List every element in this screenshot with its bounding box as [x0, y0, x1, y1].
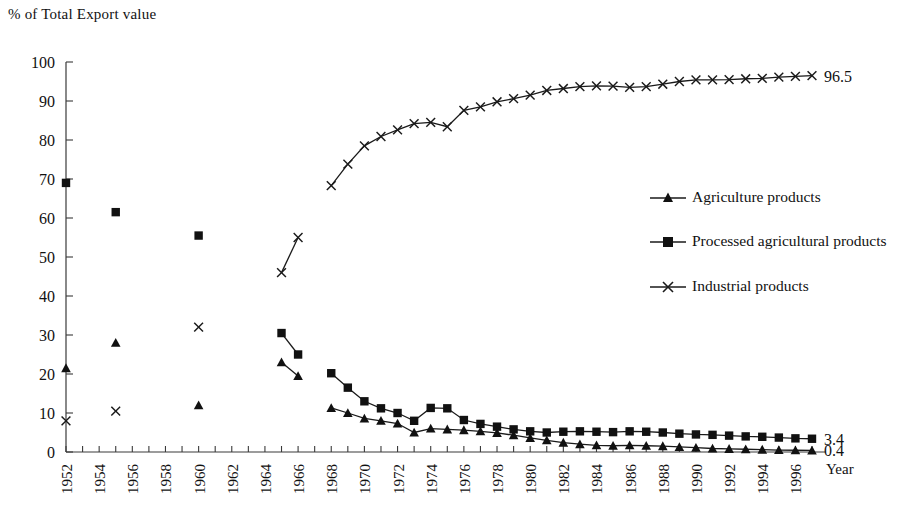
data-point-square: [625, 427, 633, 435]
x-tick-label: 1992: [722, 464, 738, 494]
data-point-square: [642, 428, 650, 436]
data-point-square: [675, 429, 683, 437]
data-point-square: [692, 430, 700, 438]
chart-container: % of Total Export value 0102030405060708…: [0, 0, 902, 522]
data-point-square: [294, 350, 302, 358]
x-tick-label: 1984: [589, 464, 605, 495]
legend-marker-x-icon: [648, 277, 688, 297]
x-tick-label: 1986: [623, 464, 639, 495]
data-point-square: [741, 432, 749, 440]
data-point-square: [112, 208, 120, 216]
series-line: [331, 76, 812, 186]
data-point-square: [493, 422, 501, 430]
series-line: [282, 238, 299, 273]
x-tick-label: 1960: [192, 464, 208, 494]
y-tick-label: 50: [39, 249, 55, 266]
x-tick-label: 1988: [656, 464, 672, 494]
data-point-square: [194, 231, 202, 239]
legend-marker-square-icon: [648, 232, 688, 252]
chart-plot-area: 0102030405060708090100195219541956195819…: [0, 0, 902, 522]
legend-label-industrial: Industrial products: [692, 277, 809, 295]
data-point-triangle: [111, 338, 121, 347]
y-tick-label: 40: [39, 288, 55, 305]
data-point-square: [592, 428, 600, 436]
data-point-square: [758, 433, 766, 441]
data-point-triangle: [277, 358, 287, 367]
data-point-square: [62, 179, 70, 187]
y-tick-label: 20: [39, 366, 55, 383]
data-point-square: [509, 425, 517, 433]
y-tick-label: 90: [39, 93, 55, 110]
y-tick-label: 70: [39, 171, 55, 188]
data-point-square: [609, 428, 617, 436]
data-point-triangle: [194, 400, 204, 409]
x-tick-label: 1970: [357, 464, 373, 494]
x-tick-label: 1956: [125, 464, 141, 495]
x-tick-label: 1982: [556, 464, 572, 494]
x-tick-label: 1962: [225, 464, 241, 494]
data-point-square: [460, 416, 468, 424]
x-tick-label: 1996: [788, 464, 804, 495]
x-tick-label: 1976: [457, 464, 473, 495]
y-tick-label: 10: [39, 405, 55, 422]
x-tick-label: 1958: [158, 464, 174, 494]
legend-label-agriculture: Agriculture products: [692, 188, 821, 206]
x-tick-label: 1990: [689, 464, 705, 494]
data-point-triangle: [326, 403, 336, 412]
series-end-label: 3.4: [824, 431, 844, 448]
data-point-square: [725, 431, 733, 439]
data-point-square: [427, 404, 435, 412]
data-point-square: [526, 427, 534, 435]
data-point-square: [476, 420, 484, 428]
x-tick-label: 1954: [92, 464, 108, 495]
y-tick-label: 0: [47, 444, 55, 461]
series-line: [331, 373, 812, 439]
y-tick-label: 60: [39, 210, 55, 227]
x-tick-label: 1964: [258, 464, 274, 495]
series-line: [331, 408, 812, 451]
data-point-triangle: [360, 414, 370, 423]
data-point-square: [344, 383, 352, 391]
x-tick-label: 1952: [59, 464, 75, 494]
data-point-triangle: [61, 363, 71, 372]
y-tick-label: 80: [39, 132, 55, 149]
x-tick-label: 1966: [291, 464, 307, 495]
series-square: [62, 179, 816, 443]
data-point-square: [443, 404, 451, 412]
data-point-square: [543, 428, 551, 436]
data-point-square: [708, 431, 716, 439]
data-point-square: [327, 369, 335, 377]
y-tick-label: 30: [39, 327, 55, 344]
data-point-square: [808, 435, 816, 443]
series-triangle: [61, 338, 817, 454]
data-point-square: [791, 434, 799, 442]
x-tick-label: 1994: [755, 464, 771, 495]
x-tick-label: 1974: [424, 464, 440, 495]
data-point-square: [659, 428, 667, 436]
x-tick-label: 1972: [391, 464, 407, 494]
data-point-square: [277, 329, 285, 337]
series-end-label: 96.5: [824, 68, 852, 85]
x-tick-label: 1978: [490, 464, 506, 494]
data-point-square: [775, 433, 783, 441]
data-point-square: [360, 397, 368, 405]
data-point-square: [377, 404, 385, 412]
data-point-square: [559, 428, 567, 436]
legend-label-processed: Processed agricultural products: [692, 232, 887, 250]
legend-marker-triangle-icon: [648, 188, 688, 208]
data-point-square: [410, 417, 418, 425]
data-point-square: [393, 409, 401, 417]
y-tick-label: 100: [31, 54, 55, 71]
x-axis-title: Year: [826, 461, 854, 477]
x-tick-label: 1968: [324, 464, 340, 494]
x-tick-label: 1980: [523, 464, 539, 494]
data-point-square: [576, 427, 584, 435]
